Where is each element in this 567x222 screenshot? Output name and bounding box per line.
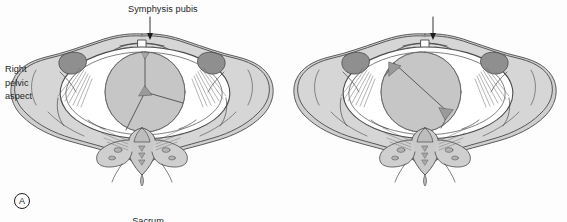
caption-a: Sacrum left occipitoanterior <box>58 190 238 222</box>
side-label-line-2: pelvic <box>5 77 32 91</box>
pelvis-illustration-b <box>283 0 567 222</box>
symphysis-pubis-label-a: Symphysis pubis <box>128 4 198 16</box>
panel-b: Symphysis pubis Left pelvic aspect Sacru… <box>283 0 567 222</box>
panel-letter-a: A <box>14 193 30 209</box>
caption-a-line-1: Sacrum <box>58 215 238 222</box>
right-pelvic-aspect-label: Right pelvic aspect <box>5 63 32 104</box>
side-label-line-1: Right <box>5 63 32 77</box>
pelvis-illustration-a <box>0 0 284 222</box>
panel-a: Symphysis pubis Right pelvic aspect Sacr… <box>0 0 284 222</box>
figure-container: Symphysis pubis Right pelvic aspect Sacr… <box>0 0 567 222</box>
side-label-line-3: aspect <box>5 90 32 104</box>
